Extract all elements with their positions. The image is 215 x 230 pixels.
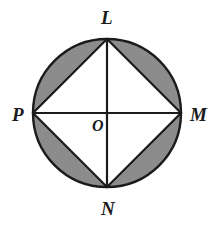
- geometry-canvas: [0, 0, 215, 230]
- vertex-label-N: N: [101, 199, 115, 218]
- vertex-label-P: P: [12, 105, 24, 124]
- vertex-label-M: M: [190, 105, 207, 124]
- vertex-label-L: L: [101, 8, 113, 27]
- geometry-figure: L M N P O: [0, 0, 215, 230]
- center-label-O: O: [92, 118, 104, 134]
